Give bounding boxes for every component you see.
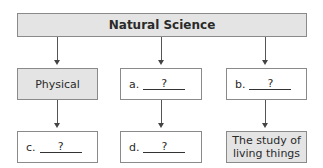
node-study-of-living-things: The study of living things <box>226 131 307 163</box>
fill-in-blank: ? <box>143 141 185 153</box>
fill-in-blank: ? <box>143 78 185 90</box>
fill-in-blank: ? <box>40 141 82 153</box>
node-prefix: c. <box>26 141 36 154</box>
node-label: Physical <box>35 78 80 91</box>
connector-line <box>161 37 162 61</box>
node-b-blank: b. ? <box>226 68 307 100</box>
node-a-blank: a. ? <box>120 68 202 100</box>
connector-line <box>161 100 162 124</box>
root-node-label: Natural Science <box>109 18 216 32</box>
arrowhead-icon <box>54 60 60 65</box>
node-prefix: b. <box>235 78 245 91</box>
node-label-line1: The study of <box>232 134 301 147</box>
arrowhead-icon <box>262 60 268 65</box>
node-d-blank: d. ? <box>120 131 202 163</box>
arrowhead-icon <box>54 123 60 128</box>
root-node-natural-science: Natural Science <box>17 13 307 37</box>
node-prefix: a. <box>129 78 139 91</box>
node-label-line2: living things <box>233 147 300 160</box>
connector-line <box>265 37 266 61</box>
node-physical: Physical <box>17 68 98 100</box>
arrowhead-icon <box>158 123 164 128</box>
fill-in-blank: ? <box>249 78 291 90</box>
connector-line <box>57 100 58 124</box>
arrowhead-icon <box>262 123 268 128</box>
node-c-blank: c. ? <box>17 131 98 163</box>
connector-line <box>57 37 58 61</box>
connector-line <box>265 100 266 124</box>
arrowhead-icon <box>158 60 164 65</box>
node-prefix: d. <box>129 141 139 154</box>
